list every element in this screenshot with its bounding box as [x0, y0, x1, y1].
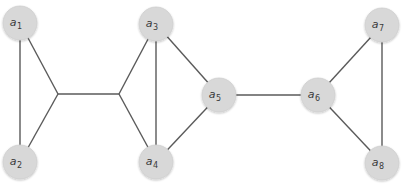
node-a8: a8	[365, 146, 399, 180]
graph-diagram: a1a2a3a4a5a6a7a8	[0, 0, 406, 188]
nodes-layer: a1a2a3a4a5a6a7a8	[3, 6, 399, 180]
node-a7: a7	[365, 8, 399, 42]
node-a3: a3	[139, 7, 173, 41]
node-a5: a5	[202, 78, 236, 112]
node-a4: a4	[139, 145, 173, 179]
node-a1: a1	[3, 6, 37, 40]
node-a2: a2	[3, 145, 37, 179]
node-a6: a6	[301, 78, 335, 112]
